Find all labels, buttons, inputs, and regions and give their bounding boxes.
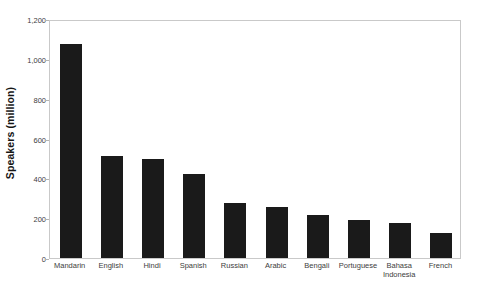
y-axis-tick-mark <box>45 179 49 180</box>
bar <box>183 174 205 258</box>
bar <box>307 215 329 258</box>
x-axis-tick-label: Spanish <box>170 262 216 271</box>
y-axis-tick-labels: 02004006008001,0001,200 <box>18 0 46 291</box>
y-axis-tick-label: 800 <box>18 95 46 104</box>
x-axis-tick-label: Portuguese <box>335 262 381 271</box>
y-axis-tick-mark <box>45 140 49 141</box>
bar-chart: Speakers (million) 02004006008001,0001,2… <box>0 0 479 291</box>
bars-container <box>50 21 460 258</box>
bar <box>60 44 82 258</box>
plot-area <box>49 20 461 259</box>
y-axis-tick-mark <box>45 20 49 21</box>
y-axis-tick-mark <box>45 259 49 260</box>
bar <box>142 159 164 258</box>
x-axis-tick-label: English <box>88 262 134 271</box>
y-axis-tick-label: 400 <box>18 175 46 184</box>
bar <box>266 207 288 258</box>
y-axis-tick-mark <box>45 219 49 220</box>
x-axis-tick-label: Bahasa Indonesia <box>376 262 422 279</box>
y-axis-tick-label: 0 <box>18 255 46 264</box>
x-axis-tick-labels: MandarinEnglishHindiSpanishRussianArabic… <box>49 262 461 291</box>
bar <box>101 156 123 258</box>
y-axis-tick-mark <box>45 60 49 61</box>
bar <box>224 203 246 258</box>
x-axis-tick-label: French <box>417 262 463 271</box>
bar <box>430 233 452 258</box>
y-axis-title-text: Speakers (million) <box>4 86 16 178</box>
y-axis-tick-label: 1,200 <box>18 16 46 25</box>
y-axis-tick-label: 600 <box>18 135 46 144</box>
bar <box>348 220 370 258</box>
y-axis-tick-label: 200 <box>18 215 46 224</box>
x-axis-tick-label: Mandarin <box>47 262 93 271</box>
bar <box>389 223 411 258</box>
x-axis-tick-label: Hindi <box>129 262 175 271</box>
x-axis-tick-label: Russian <box>211 262 257 271</box>
x-axis-tick-label: Bengali <box>294 262 340 271</box>
y-axis-tick-label: 1,000 <box>18 55 46 64</box>
y-axis-tick-mark <box>45 100 49 101</box>
y-axis-title: Speakers (million) <box>0 0 20 265</box>
x-axis-tick-label: Arabic <box>253 262 299 271</box>
